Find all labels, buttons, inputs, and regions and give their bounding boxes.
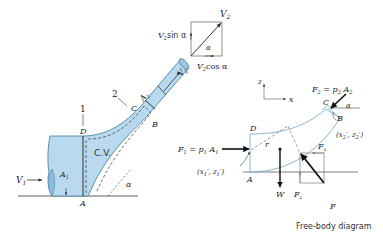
fbd-cv-outline	[250, 109, 340, 172]
point-d-label: D	[79, 127, 87, 136]
fbd-point-c-label: C	[323, 98, 329, 107]
v2-sin-label: V2sin α	[158, 31, 186, 41]
section-2-leader	[118, 98, 127, 106]
f-resultant-arrow	[301, 154, 324, 183]
fbd-alpha-label: α	[346, 102, 351, 110]
v1-label: V1	[16, 175, 26, 186]
fbd-point-b-label: B	[336, 114, 343, 123]
angle-alpha-label: α	[126, 180, 132, 189]
f2-force-arrow	[331, 94, 346, 108]
x-axis-label: x	[289, 95, 294, 104]
f1-label: F1 = p1 A1	[177, 145, 218, 155]
v2-cos-label: V2cos α	[197, 62, 228, 72]
moment-arm-line	[288, 126, 300, 153]
z-axis-label: z	[257, 78, 262, 86]
f-resultant-label: F	[329, 202, 336, 211]
control-volume-label: C.V.	[94, 148, 111, 158]
v2-vector-label: V2	[220, 9, 231, 20]
fx-label: Fx	[317, 142, 327, 152]
fbd-caption: Free-body diagram	[296, 222, 372, 231]
diagram-canvas: 1 2 D A C B C.V. α V1 A1 A2 V2 V2 α V2si…	[0, 0, 383, 234]
fz-label: Fz	[293, 190, 303, 200]
f2-label: F2 = p2 A2	[311, 85, 352, 95]
point-2-coordinates: (x2′, z2′)	[336, 131, 363, 140]
vector-alpha-label: α	[206, 44, 211, 52]
weight-label: W	[276, 190, 285, 199]
velocity-components: V2 α V2sin α V2cos α	[158, 9, 231, 72]
free-body-diagram: z x C B D A r α W F	[177, 78, 372, 231]
fbd-point-a-label: A	[246, 175, 253, 184]
point-a-label: A	[79, 199, 86, 208]
fbd-point-d-label: D	[249, 124, 257, 133]
section-1-label: 1	[80, 104, 86, 114]
point-b-label: B	[151, 120, 158, 129]
pipe-bend: 1 2 D A C B C.V. α V1 A1 A2 V2	[16, 57, 190, 208]
radius-line	[251, 126, 288, 150]
section-2-label: 2	[112, 89, 118, 99]
point-c-label: C	[131, 104, 137, 113]
point-1-coordinates: (x1′, z1′)	[197, 168, 224, 177]
point-1-leader	[240, 152, 250, 166]
radius-label: r	[265, 140, 270, 149]
